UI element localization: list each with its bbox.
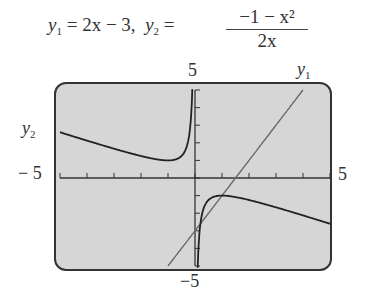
x-max-label: 5 <box>338 164 347 185</box>
y1-expression: = 2x − 3, <box>62 14 136 35</box>
y2-fraction: −1 − x² 2x <box>226 6 308 52</box>
y2-numerator: −1 − x² <box>226 6 308 30</box>
chart-title: y1 = 2x − 3, y2 = <box>48 14 175 37</box>
y2-curve-subscript: 2 <box>30 128 36 140</box>
y-min-label: −5 <box>180 271 199 292</box>
y2-right-branch <box>198 196 330 268</box>
y1-curve-label: y1 <box>297 59 311 81</box>
graph-screen <box>54 82 332 271</box>
y2-symbol: y <box>145 14 153 35</box>
y2-curve-symbol: y <box>22 118 30 138</box>
y-max-label: 5 <box>188 60 197 81</box>
x-min-label: − 5 <box>18 163 42 184</box>
y2-curve-label: y2 <box>22 118 36 140</box>
y2-denominator: 2x <box>226 30 308 52</box>
y2-left-branch <box>60 89 192 160</box>
plot-area <box>56 84 332 271</box>
equals-sign: = <box>159 14 174 35</box>
y1-curve-subscript: 1 <box>305 69 311 81</box>
y1-curve-symbol: y <box>297 59 305 79</box>
